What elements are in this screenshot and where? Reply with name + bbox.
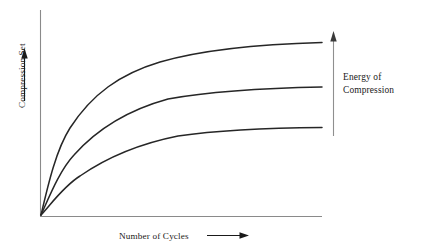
curve-middle bbox=[41, 87, 322, 215]
y-axis-label-group: Compression Set bbox=[17, 43, 28, 108]
x-axis-label: Number of Cycles bbox=[119, 231, 189, 241]
plot-axes bbox=[40, 10, 322, 217]
y-axis-label: Compression Set bbox=[17, 43, 27, 108]
x-axis-label-group: Number of Cycles bbox=[119, 231, 249, 241]
energy-annotation-line2: Compression bbox=[343, 85, 394, 95]
compression-set-schematic-chart: Compression Set Number of Cycles Energy … bbox=[0, 0, 424, 251]
chart-figure: Compression Set Number of Cycles Energy … bbox=[0, 0, 424, 251]
curve-bottom bbox=[41, 128, 322, 216]
curve-group bbox=[41, 43, 322, 216]
right-arrow-icon bbox=[240, 232, 250, 238]
energy-annotation-line1: Energy of bbox=[343, 72, 382, 82]
up-arrow-icon bbox=[330, 31, 336, 42]
energy-annotation-group: Energy of Compression bbox=[330, 31, 394, 136]
